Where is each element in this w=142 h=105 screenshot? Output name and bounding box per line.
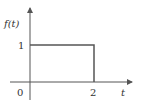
pulse-line	[30, 45, 94, 82]
y-axis-label: f(t)	[3, 18, 20, 29]
pulse-chart: f(t) 1 0 2 t	[0, 0, 142, 105]
x-axis-label: t	[121, 87, 126, 98]
y-tick-1: 1	[18, 40, 24, 51]
x-tick-2: 2	[90, 87, 96, 98]
origin-label: 0	[17, 87, 23, 98]
